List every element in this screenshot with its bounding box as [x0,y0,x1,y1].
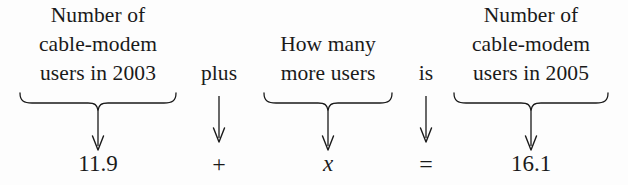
diagram-column-cable-modem-users-2005: Number of cable-modem users in 2005 16.1 [452,0,610,185]
phrase-block: Number of cable-modem users in 2003 [18,0,178,88]
phrase-block: Number of cable-modem users in 2005 [452,0,610,88]
equation-operator: = [402,150,450,178]
down-arrow [262,108,394,152]
phrase-block: How many more users [262,0,394,88]
down-arrow [186,96,252,144]
phrase-line: is [419,59,434,88]
phrase-line: Number of [484,1,579,30]
phrase-line: Number of [51,1,146,30]
phrase-line: cable-modem [472,30,590,59]
phrase-line: plus [201,59,237,88]
phrase-block: is [402,0,450,88]
diagram-column-how-many-more-users: How many more users x [262,0,394,185]
diagram-column-is: is = [402,0,450,185]
equation-operator: + [186,150,252,178]
down-arrow [402,96,450,144]
phrase-line: more users [281,59,376,88]
phrase-line: users in 2005 [473,59,589,88]
equation-term: 16.1 [452,150,610,178]
equation-variable: x [262,150,394,178]
phrase-line: How many [280,30,376,59]
diagram-column-cable-modem-users-2003: Number of cable-modem users in 2003 11.9 [18,0,178,185]
phrase-block: plus [186,0,252,88]
equation-term: 11.9 [18,150,178,178]
phrase-line: cable-modem [39,30,157,59]
word-problem-translation-diagram: Number of cable-modem users in 2003 11.9… [0,0,628,185]
down-arrow [452,108,610,152]
diagram-column-plus: plus + [186,0,252,185]
down-arrow [18,108,178,152]
phrase-line: users in 2003 [40,59,156,88]
